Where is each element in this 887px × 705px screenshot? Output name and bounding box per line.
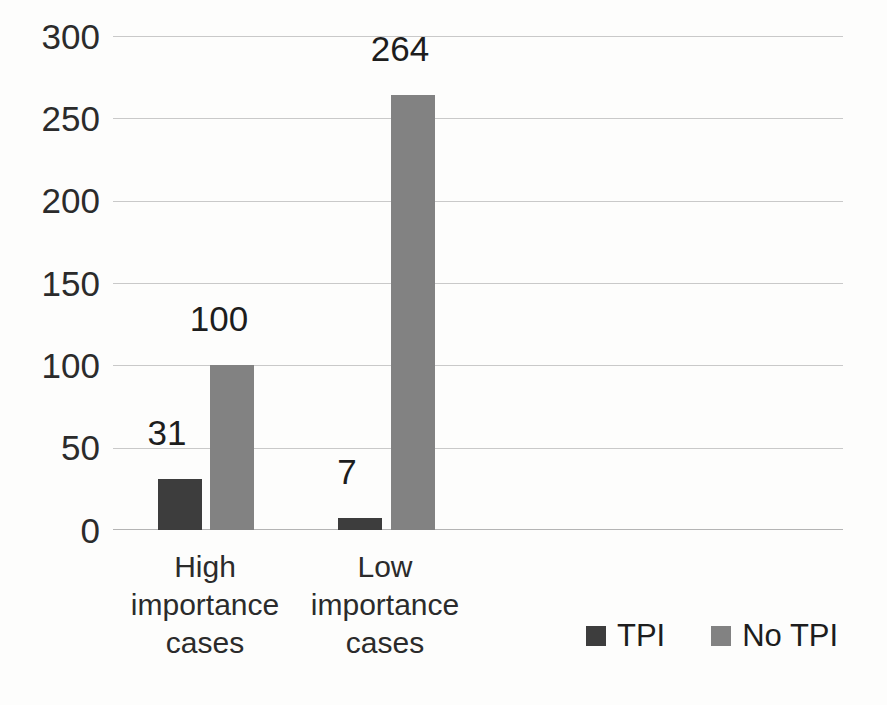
bar-no-tpi-low-importance[interactable] <box>391 95 435 530</box>
gridline-250 <box>113 118 843 119</box>
x-category-line-2: importance <box>110 586 300 624</box>
x-category-line-1: High <box>110 548 300 586</box>
bar-chart: 300 250 200 150 100 50 0 31 100 7 264 Hi… <box>0 0 887 705</box>
x-category-line-2: importance <box>290 586 480 624</box>
data-label-no-tpi-high-importance: 100 <box>175 301 263 336</box>
gridline-200 <box>113 201 843 202</box>
y-tick-150: 150 <box>8 266 100 301</box>
data-label-tpi-low-importance: 7 <box>303 454 391 489</box>
y-axis-tick-labels: 300 250 200 150 100 50 0 <box>0 36 100 530</box>
legend-item-no-tpi[interactable]: No TPI <box>711 620 838 651</box>
y-tick-50: 50 <box>8 430 100 465</box>
x-category-line-3: cases <box>290 624 480 662</box>
x-category-line-3: cases <box>110 624 300 662</box>
legend-label-no-tpi: No TPI <box>742 620 838 651</box>
data-label-no-tpi-low-importance: 264 <box>356 31 444 66</box>
x-category-line-1: Low <box>290 548 480 586</box>
bar-no-tpi-high-importance[interactable] <box>210 365 254 530</box>
x-category-low-importance-cases: Low importance cases <box>290 548 480 662</box>
legend-item-tpi[interactable]: TPI <box>586 620 665 651</box>
bar-tpi-low-importance[interactable] <box>338 518 382 530</box>
x-category-high-importance-cases: High importance cases <box>110 548 300 662</box>
legend-swatch-icon-no-tpi <box>711 626 731 646</box>
legend-swatch-icon-tpi <box>586 626 606 646</box>
y-tick-100: 100 <box>8 348 100 383</box>
y-tick-0: 0 <box>8 513 100 548</box>
data-label-tpi-high-importance: 31 <box>123 415 211 450</box>
cropped-title-text <box>0 0 887 4</box>
y-tick-250: 250 <box>8 101 100 136</box>
gridline-150 <box>113 283 843 284</box>
legend-label-tpi: TPI <box>617 620 665 651</box>
y-tick-200: 200 <box>8 183 100 218</box>
bar-tpi-high-importance[interactable] <box>158 479 202 530</box>
chart-legend: TPI No TPI <box>586 620 838 651</box>
plot-area <box>113 36 843 530</box>
gridline-300 <box>113 36 843 37</box>
y-tick-300: 300 <box>8 19 100 54</box>
